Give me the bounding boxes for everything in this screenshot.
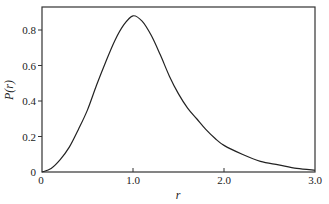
- y-tick-label: 0.8: [22, 24, 36, 36]
- x-axis-label: r: [176, 188, 181, 202]
- y-axis-label: P(r): [2, 80, 16, 101]
- y-tick-label: 0.2: [22, 131, 36, 143]
- chart: 01.02.03.0 00.20.40.60.8 r P(r): [0, 0, 329, 204]
- y-tick-label: 0: [31, 166, 37, 178]
- y-tick-label: 0.6: [22, 60, 36, 72]
- x-tick-label: 1.0: [126, 174, 140, 186]
- x-tick-label: 0: [38, 174, 44, 186]
- distribution-curve: [42, 16, 315, 172]
- x-tick-label: 3.0: [308, 174, 322, 186]
- plot-border: [42, 7, 315, 172]
- y-axis: 00.20.40.60.8: [22, 24, 42, 178]
- plot-frame: [42, 7, 315, 172]
- x-tick-label: 2.0: [217, 174, 231, 186]
- x-axis: 01.02.03.0: [38, 168, 322, 186]
- y-tick-label: 0.4: [22, 95, 36, 107]
